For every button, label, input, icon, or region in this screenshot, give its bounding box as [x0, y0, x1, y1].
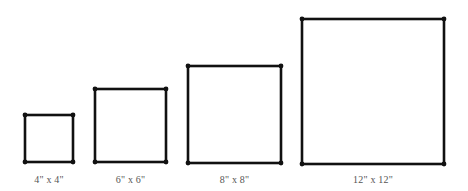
- square-4x4: [23, 113, 76, 165]
- corner-dot: [442, 162, 447, 167]
- square-8x8: [186, 64, 284, 166]
- corner-dot: [300, 162, 305, 167]
- diagram-canvas: [0, 0, 468, 191]
- square-outline: [25, 115, 73, 162]
- square-12x12: [300, 17, 447, 167]
- square-label-4x4: 4" x 4": [34, 174, 64, 185]
- corner-dot: [71, 113, 76, 118]
- corner-dot: [164, 160, 169, 165]
- square-label-12x12: 12" x 12": [353, 174, 393, 185]
- corner-dot: [23, 113, 28, 118]
- corner-dot: [93, 87, 98, 92]
- corner-dot: [186, 161, 191, 166]
- corner-dot: [442, 17, 447, 22]
- corner-dot: [164, 87, 169, 92]
- corner-dot: [71, 160, 76, 165]
- square-outline: [95, 89, 166, 162]
- square-label-6x6: 6" x 6": [116, 174, 146, 185]
- corner-dot: [186, 64, 191, 69]
- square-6x6: [93, 87, 169, 165]
- corner-dot: [279, 161, 284, 166]
- square-outline: [188, 66, 281, 163]
- corner-dot: [300, 17, 305, 22]
- corner-dot: [93, 160, 98, 165]
- corner-dot: [279, 64, 284, 69]
- corner-dot: [23, 160, 28, 165]
- square-label-8x8: 8" x 8": [220, 174, 250, 185]
- square-size-diagram: 4" x 4" 6" x 6" 8" x 8" 12" x 12": [0, 0, 468, 191]
- square-outline: [302, 19, 444, 164]
- squares-layer: [23, 17, 447, 167]
